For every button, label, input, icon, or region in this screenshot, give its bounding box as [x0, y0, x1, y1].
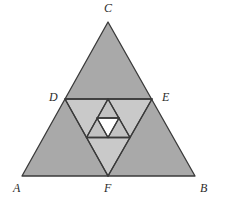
- vertex-label-e: E: [162, 91, 169, 103]
- geometry-figure: C D E A F B: [0, 0, 226, 205]
- vertex-label-d: D: [49, 91, 58, 103]
- vertex-label-b: B: [200, 182, 207, 194]
- vertex-label-f: F: [104, 182, 111, 194]
- nested-triangles-diagram: [0, 0, 226, 205]
- vertex-label-c: C: [104, 2, 112, 14]
- vertex-label-a: A: [13, 182, 20, 194]
